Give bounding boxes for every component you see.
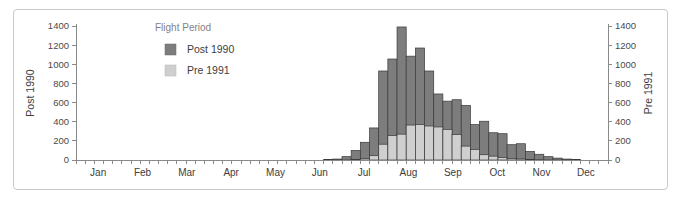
bar-pre-1991 (480, 155, 489, 160)
bar-pre-1991 (388, 136, 397, 160)
bar-pre-1991 (461, 146, 470, 160)
bar-post-1990 (516, 144, 525, 160)
bar-post-1990 (498, 134, 507, 160)
x-axis-month-label: Jun (312, 167, 328, 178)
right-axis-tick-label: 600 (615, 97, 631, 108)
bar-pre-1991 (425, 126, 434, 160)
bar-pre-1991 (415, 125, 424, 160)
right-axis-title: Pre 1991 (642, 72, 654, 115)
bar-pre-1991 (489, 156, 498, 160)
x-axis: JanFebMarAprMayJunJulAugSepOctNovDec (73, 160, 608, 178)
left-axis-tick-label: 200 (53, 135, 69, 146)
right-axis-tick-label: 0 (615, 154, 620, 165)
bar-pre-1991 (370, 156, 379, 160)
chart-plot-area: 0200400600800100012001400 02004006008001… (0, 0, 681, 201)
chart-figure: 0200400600800100012001400 02004006008001… (0, 0, 681, 201)
legend-label-post-1990: Post 1990 (187, 43, 234, 55)
x-axis-month-label: Oct (489, 167, 505, 178)
x-axis-month-label: Nov (533, 167, 551, 178)
bar-pre-1991 (434, 127, 443, 160)
x-axis-month-label: Dec (577, 167, 595, 178)
right-axis-tick-label: 200 (615, 135, 631, 146)
bar-post-1990 (544, 157, 553, 160)
bar-pre-1991 (397, 134, 406, 160)
left-axis-tick-label: 1200 (48, 40, 69, 51)
right-axis-tick-label: 1000 (615, 59, 636, 70)
legend-swatch-pre-1991 (165, 65, 176, 76)
bar-pre-1991 (443, 129, 452, 160)
x-axis-month-label: Apr (223, 167, 239, 178)
left-axis-tick-label: 1400 (48, 20, 69, 31)
axis-titles: Post 1990Pre 1991 (24, 69, 654, 116)
x-axis-month-label: Feb (134, 167, 152, 178)
right-axis-tick-label: 400 (615, 116, 631, 127)
bar-pre-1991 (470, 149, 479, 160)
bar-post-1990 (525, 151, 534, 160)
right-axis-tick-label: 1200 (615, 40, 636, 51)
right-axis-tick-label: 800 (615, 78, 631, 89)
left-axis-tick-label: 400 (53, 116, 69, 127)
x-axis-month-label: Sep (444, 167, 462, 178)
x-axis-month-label: Jul (358, 167, 371, 178)
x-axis-month-label: Jan (90, 167, 106, 178)
x-axis-month-label: Mar (178, 167, 196, 178)
bar-post-1990 (360, 142, 369, 160)
chart-svg: 0200400600800100012001400 02004006008001… (0, 0, 681, 201)
bar-post-1990 (342, 157, 351, 160)
bar-post-1990 (370, 128, 379, 160)
bar-post-1990 (507, 145, 516, 160)
left-axis-title: Post 1990 (24, 69, 36, 116)
bar-pre-1991 (452, 135, 461, 160)
legend-title: Flight Period (155, 22, 211, 33)
left-axis: 0200400600800100012001400 (48, 20, 76, 165)
left-axis-tick-label: 600 (53, 97, 69, 108)
left-axis-tick-label: 1000 (48, 59, 69, 70)
bars-layer (324, 27, 581, 160)
bar-pre-1991 (406, 125, 415, 160)
x-axis-month-label: Aug (400, 167, 418, 178)
bar-post-1990 (351, 150, 360, 160)
left-axis-tick-label: 0 (64, 154, 69, 165)
bar-pre-1991 (379, 144, 388, 160)
chart-legend: Flight PeriodPost 1990Pre 1991 (155, 22, 234, 76)
x-axis-month-label: May (266, 167, 285, 178)
right-axis: 0200400600800100012001400 (608, 20, 636, 165)
legend-label-pre-1991: Pre 1991 (187, 64, 230, 76)
right-axis-tick-label: 1400 (615, 20, 636, 31)
legend-swatch-post-1990 (165, 44, 176, 55)
bar-post-1990 (535, 154, 544, 160)
bar-post-1990 (480, 121, 489, 160)
left-axis-tick-label: 800 (53, 78, 69, 89)
